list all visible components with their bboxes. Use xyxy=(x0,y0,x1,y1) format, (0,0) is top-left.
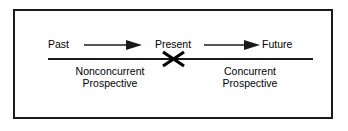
timeline-node-future: Future xyxy=(262,38,308,50)
arrow-right-icon-past-to-present xyxy=(84,39,142,51)
arrow-right-icon-present-to-future xyxy=(204,39,260,51)
region-label-nonconcurrent: Nonconcurrent Prospective xyxy=(50,66,170,89)
timeline-diagram: Past Present Future Nonconcurrent Prospe… xyxy=(0,0,348,131)
region-label-concurrent: Concurrent Prospective xyxy=(190,66,310,89)
region-label-concurrent-line2: Prospective xyxy=(190,78,310,90)
region-label-nonconcurrent-line2: Prospective xyxy=(50,78,170,90)
timeline-node-past: Past xyxy=(48,38,82,50)
region-label-concurrent-line1: Concurrent xyxy=(224,65,276,77)
region-label-nonconcurrent-line1: Nonconcurrent xyxy=(76,65,145,77)
timeline-node-present: Present xyxy=(145,38,201,50)
